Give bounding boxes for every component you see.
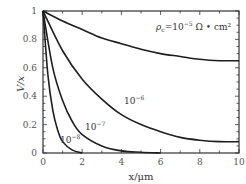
y-axis-label: V/x xyxy=(15,76,26,93)
series-line xyxy=(43,11,239,61)
curve-label-1e-6: 10−6 xyxy=(124,94,144,106)
plot-border xyxy=(43,11,239,153)
curve-label-1e-7: 10−7 xyxy=(85,120,105,132)
series-line xyxy=(43,11,161,153)
y-tick-label: 0.2 xyxy=(23,120,37,130)
y-tick-label: 1 xyxy=(31,6,37,16)
x-axis-label: x/μm xyxy=(129,171,155,182)
curve-label-1e-8: 10−8 xyxy=(60,133,80,145)
x-tick-label: 0 xyxy=(40,157,46,167)
x-tick-label: 8 xyxy=(197,157,203,167)
x-tick-label: 4 xyxy=(119,157,125,167)
chart: 024681000.20.40.60.81 V/x x/μm ρc=10−5Ω … xyxy=(0,0,246,184)
series-line xyxy=(43,11,82,153)
y-tick-label: 0.8 xyxy=(23,34,38,44)
y-tick-label: 0.6 xyxy=(23,63,38,73)
x-tick-label: 2 xyxy=(79,157,85,167)
x-tick-label: 10 xyxy=(233,157,245,167)
curves xyxy=(43,11,239,153)
y-tick-label: 0 xyxy=(31,148,37,158)
annotation-rho: ρc=10−5Ω • cm² xyxy=(155,20,232,33)
plot-frame xyxy=(43,11,239,153)
x-tick-label: 6 xyxy=(158,157,164,167)
